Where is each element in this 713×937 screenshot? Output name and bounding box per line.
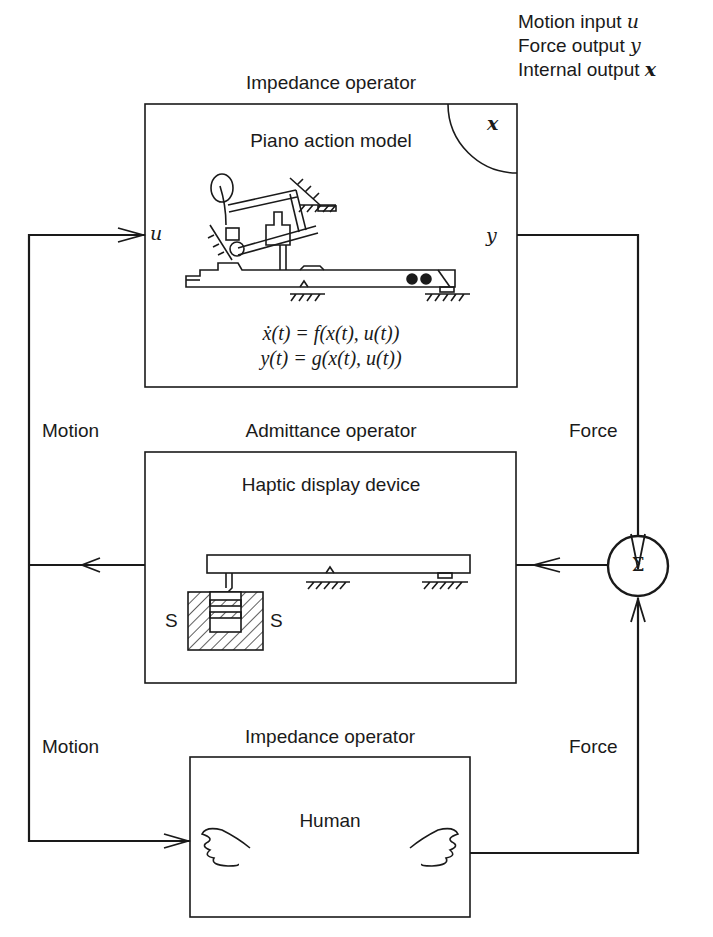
legend-force-output: Force output y <box>518 34 641 57</box>
human-title: Human <box>190 810 470 832</box>
output-var-y: y <box>486 224 497 246</box>
magnet-label-left: S <box>165 610 178 632</box>
impedance-operator-label-bottom: Impedance operator <box>190 726 470 748</box>
human-block <box>190 757 470 917</box>
left-hand-icon <box>202 829 250 866</box>
force-label-lower: Force <box>569 736 618 758</box>
force-label-upper: Force <box>569 420 618 442</box>
haptic-device-title: Haptic display device <box>145 474 517 496</box>
right-hand-icon <box>410 829 458 866</box>
state-equation: ẋ(t) = f(x(t), u(t)) <box>145 322 517 345</box>
motion-label-upper: Motion <box>42 420 99 442</box>
output-equation: y(t) = g(x(t), u(t)) <box>145 347 517 370</box>
arrowheads <box>82 228 645 848</box>
impedance-operator-label-top: Impedance operator <box>145 72 517 94</box>
legend-internal-output: Internal output x <box>518 58 656 81</box>
magnet-label-right: S <box>270 610 283 632</box>
input-var-u: u <box>150 222 162 244</box>
legend-motion-input: Motion input u <box>518 10 639 33</box>
sigma-symbol: Σ <box>608 554 668 575</box>
piano-action-sketch <box>186 174 470 301</box>
motion-label-lower: Motion <box>42 736 99 758</box>
piano-action-title: Piano action model <box>145 130 517 152</box>
state-var-x: x <box>487 112 498 134</box>
admittance-operator-label: Admittance operator <box>145 420 517 442</box>
haptic-device-sketch <box>188 555 470 650</box>
